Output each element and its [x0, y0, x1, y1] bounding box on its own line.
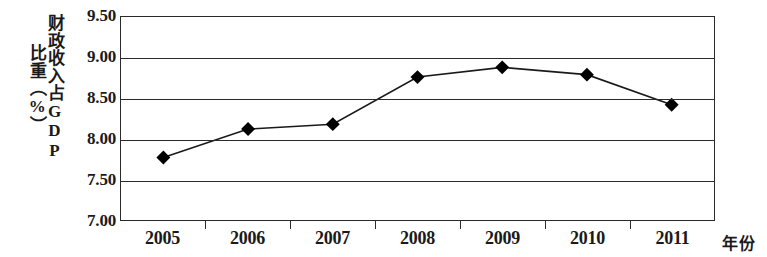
x-axis-tick-mark [630, 221, 631, 229]
y-axis-tick-label: 7.50 [58, 170, 116, 190]
y-axis-title-column-sub: 比重（%） [28, 44, 45, 220]
x-axis-tick-label: 2011 [630, 228, 716, 249]
x-axis-tick-label: 2008 [375, 228, 461, 249]
y-axis-tick-label: 8.50 [58, 88, 116, 108]
x-axis-title: 年份 [722, 230, 755, 254]
y-axis-tick-label: 9.00 [58, 47, 116, 67]
x-axis-tick-labels: 2005200620072008200920102011 [0, 228, 767, 257]
x-axis-tick-label: 2010 [545, 228, 631, 249]
gridline [121, 181, 714, 182]
data-point-marker [580, 68, 594, 82]
gridline [121, 140, 714, 141]
y-axis-title: 财政收入占GDP 比重（%） [2, 14, 64, 226]
gridline [121, 99, 714, 100]
x-axis-tick-mark [460, 221, 461, 229]
x-axis-tick-mark [375, 221, 376, 229]
x-axis-tick-label: 2009 [460, 228, 546, 249]
gridline [121, 58, 714, 59]
data-point-marker [495, 60, 509, 74]
y-axis-tick-labels: 9.509.008.508.007.507.00 [58, 0, 116, 257]
data-point-marker [411, 70, 425, 84]
data-point-marker [241, 122, 255, 136]
data-point-marker [156, 151, 170, 165]
data-series-line [121, 17, 714, 220]
data-point-marker [326, 117, 340, 131]
x-axis-tick-mark [290, 221, 291, 229]
y-axis-tick-label: 9.50 [58, 6, 116, 26]
x-axis-tick-label: 2006 [205, 228, 291, 249]
x-axis-tick-label: 2007 [290, 228, 376, 249]
x-axis-tick-mark [205, 221, 206, 229]
line-chart-figure: 财政收入占GDP 比重（%） 9.509.008.508.007.507.00 … [0, 0, 767, 257]
y-axis-tick-label: 8.00 [58, 129, 116, 149]
x-axis-tick-mark [545, 221, 546, 229]
plot-area [120, 16, 715, 221]
x-axis-tick-label: 2005 [120, 228, 206, 249]
